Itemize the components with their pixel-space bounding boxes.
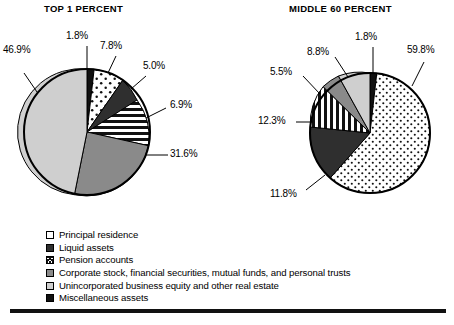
right-leader-corporate xyxy=(303,76,320,94)
right-leader-unincorporated xyxy=(335,57,348,77)
figure: TOP 1 PERCENT MIDDLE 60 PERCENT xyxy=(0,0,454,325)
bottom-rule xyxy=(10,309,446,313)
left-leader-unincorporated xyxy=(24,73,37,92)
legend-item-miscellaneous-assets: Miscellaneous assets xyxy=(46,292,350,305)
legend-label-unincorporated-business: Unincorporated business equity and other… xyxy=(59,281,279,291)
right-label-pension-accounts: 12.3% xyxy=(258,115,285,126)
left-label-unincorporated-business: 46.9% xyxy=(3,44,30,55)
legend-swatch-hatch-icon xyxy=(46,256,54,264)
left-label-liquid-assets: 5.0% xyxy=(143,60,165,71)
right-leader-liquid xyxy=(306,175,325,190)
legend-swatch-light-gray-icon xyxy=(46,282,54,290)
legend-item-liquid-assets: Liquid assets xyxy=(46,242,350,255)
legend-swatch-dots-icon xyxy=(46,231,54,239)
left-leader-principal xyxy=(108,56,116,73)
legend-item-corporate-stock: Corporate stock, financial securities, m… xyxy=(46,267,350,280)
legend: Principal residence Liquid assets Pensio… xyxy=(46,229,350,305)
legend-label-pension-accounts: Pension accounts xyxy=(59,255,133,265)
left-label-corporate-stock: 31.6% xyxy=(170,148,197,159)
right-leader-principal xyxy=(412,62,424,86)
legend-label-corporate-stock: Corporate stock, financial securities, m… xyxy=(59,268,350,278)
right-label-misc: 1.8% xyxy=(355,31,377,42)
legend-item-principal-residence: Principal residence xyxy=(46,229,350,242)
right-label-unincorporated-business: 8.8% xyxy=(307,46,329,57)
legend-item-unincorporated-business: Unincorporated business equity and other… xyxy=(46,279,350,292)
legend-swatch-dark-icon xyxy=(46,244,54,252)
legend-swatch-black-icon xyxy=(46,294,54,302)
legend-label-liquid-assets: Liquid assets xyxy=(59,243,114,253)
legend-label-principal-residence: Principal residence xyxy=(59,230,138,240)
right-label-principal-residence: 59.8% xyxy=(407,44,434,55)
left-leader-pension xyxy=(146,108,166,118)
left-label-misc: 1.8% xyxy=(66,30,88,41)
left-slice-unincorporated-business xyxy=(18,69,87,195)
right-label-corporate-stock: 5.5% xyxy=(270,66,292,77)
left-leader-liquid xyxy=(131,76,146,89)
legend-swatch-mid-gray-icon xyxy=(46,269,54,277)
left-label-pension-accounts: 6.9% xyxy=(170,99,192,110)
legend-label-miscellaneous-assets: Miscellaneous assets xyxy=(59,293,148,303)
left-label-principal-residence: 7.8% xyxy=(100,40,122,51)
legend-item-pension-accounts: Pension accounts xyxy=(46,254,350,267)
right-label-liquid-assets: 11.8% xyxy=(270,188,297,199)
